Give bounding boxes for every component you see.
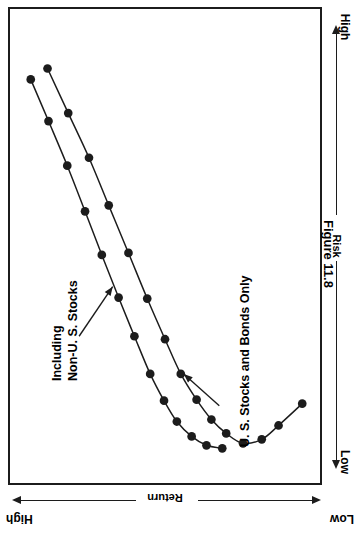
annotation-leader-including bbox=[79, 287, 113, 337]
annotation-us-line1: U. S. Stocks and Bonds Only bbox=[238, 275, 252, 447]
data-point bbox=[202, 441, 211, 450]
data-point bbox=[97, 251, 106, 260]
data-point bbox=[257, 435, 266, 444]
figure-page: Including Non-U. S. Stocks U. S. Stocks … bbox=[0, 0, 364, 535]
return-axis-line-right bbox=[198, 500, 316, 501]
data-point bbox=[81, 207, 90, 216]
data-point bbox=[187, 432, 196, 441]
risk-axis-high-label: High bbox=[338, 14, 352, 41]
figure-caption: Figure 11.8 bbox=[321, 220, 336, 288]
data-point bbox=[274, 421, 283, 430]
return-axis-line-left bbox=[16, 500, 136, 501]
series-line-0 bbox=[31, 79, 223, 448]
data-point bbox=[85, 153, 94, 162]
risk-axis-low-label: Low bbox=[338, 450, 352, 474]
annotation-us-only: U. S. Stocks and Bonds Only bbox=[238, 275, 254, 447]
return-axis-label: Return bbox=[147, 492, 182, 504]
plot-area: Including Non-U. S. Stocks U. S. Stocks … bbox=[8, 7, 322, 485]
data-point bbox=[192, 395, 201, 404]
data-point bbox=[161, 335, 170, 344]
return-axis: Return bbox=[8, 492, 322, 510]
data-point bbox=[114, 293, 123, 302]
data-point bbox=[173, 417, 182, 426]
data-point bbox=[207, 415, 216, 424]
data-point bbox=[222, 429, 231, 438]
annotation-leader-including-arrowhead-icon bbox=[105, 287, 113, 296]
data-point bbox=[218, 444, 227, 453]
annotation-including-line1: Including bbox=[50, 325, 64, 381]
return-axis-arrow-left-icon bbox=[12, 496, 21, 504]
series-line-1 bbox=[48, 68, 303, 443]
data-point bbox=[64, 109, 73, 118]
return-axis-arrow-right-icon bbox=[312, 496, 321, 504]
data-point bbox=[44, 117, 53, 126]
annotation-including-non-us: Including Non-U. S. Stocks bbox=[50, 280, 81, 381]
data-point bbox=[160, 396, 169, 405]
annotation-including-line2: Non-U. S. Stocks bbox=[66, 280, 82, 381]
data-point bbox=[146, 370, 155, 379]
data-point bbox=[104, 201, 113, 210]
data-point bbox=[26, 75, 35, 84]
data-point bbox=[124, 249, 133, 258]
data-point bbox=[298, 399, 307, 408]
data-point bbox=[130, 332, 139, 341]
return-axis-high-label: High bbox=[6, 512, 33, 526]
chart-canvas bbox=[10, 9, 320, 483]
data-point bbox=[43, 64, 52, 73]
return-axis-low-label: Low bbox=[330, 512, 354, 526]
risk-axis-line-top bbox=[336, 33, 337, 215]
data-point bbox=[63, 161, 72, 170]
risk-axis-line-bottom bbox=[336, 261, 337, 461]
data-point bbox=[143, 294, 152, 303]
